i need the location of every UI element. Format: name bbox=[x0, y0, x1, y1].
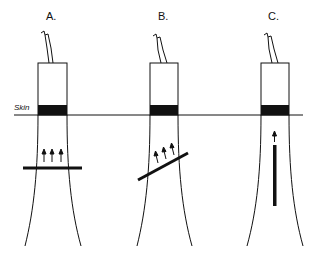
vertical-bar bbox=[273, 145, 277, 206]
tissue-right-edge bbox=[289, 115, 303, 246]
electrode-tip bbox=[38, 105, 67, 115]
electrode-tip bbox=[261, 105, 289, 115]
panel-a bbox=[23, 31, 82, 246]
tissue-right-edge bbox=[67, 115, 81, 246]
wire-icon bbox=[41, 31, 53, 63]
diagram-canvas bbox=[0, 0, 314, 253]
arrow-icon bbox=[42, 149, 63, 162]
panel-b bbox=[137, 34, 192, 246]
arrow-icon bbox=[273, 131, 277, 142]
electrode-tip bbox=[150, 105, 178, 115]
tissue-left-edge bbox=[25, 115, 38, 246]
arrow-icon bbox=[154, 143, 174, 163]
wire-icon bbox=[153, 34, 167, 63]
wire-icon bbox=[264, 33, 278, 63]
tissue-left-edge bbox=[247, 115, 261, 246]
panel-c bbox=[247, 33, 303, 246]
tissue-right-edge bbox=[178, 115, 192, 246]
